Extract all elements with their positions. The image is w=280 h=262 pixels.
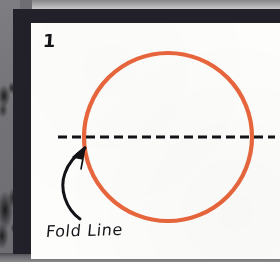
page-top-left-shadow bbox=[0, 0, 32, 9]
illustration-frame: 1 Fold Line bbox=[13, 9, 280, 254]
illustration-panel: 1 Fold Line bbox=[31, 23, 280, 259]
illustration-paper: 1 Fold Line bbox=[31, 23, 280, 259]
page-top-margin bbox=[0, 0, 280, 9]
fold-line-label: Fold Line bbox=[45, 222, 124, 240]
curved-fold-arrow bbox=[63, 147, 85, 219]
scanned-page: 1 Fold Line bbox=[0, 0, 280, 262]
